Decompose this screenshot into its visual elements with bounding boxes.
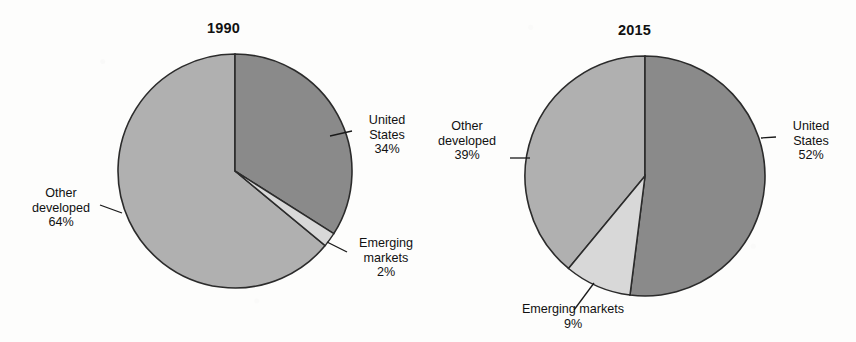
pie-chart-2015: 2015 United States 52% Other developed 3… xyxy=(0,0,856,342)
label-other-developed-2015-line1: Other xyxy=(430,119,504,134)
label-emerging-markets-2015-value: 9% xyxy=(478,317,668,332)
label-other-developed-2015: Other developed 39% xyxy=(430,119,504,163)
label-united-states-2015-line2: States xyxy=(780,134,842,149)
label-emerging-markets-2015: Emerging markets 9% xyxy=(478,302,668,331)
pie-2015-graphic xyxy=(0,0,856,342)
label-united-states-2015: United States 52% xyxy=(780,119,842,163)
label-united-states-2015-line1: United xyxy=(780,119,842,134)
label-other-developed-2015-value: 39% xyxy=(430,148,504,163)
figure-canvas: 1990 United States 34% Emerging markets … xyxy=(0,0,856,342)
label-emerging-markets-2015-line1: Emerging markets xyxy=(478,302,668,317)
slice-united-states-2015[interactable] xyxy=(630,56,765,296)
leader-line-united-states-2015 xyxy=(761,137,776,138)
label-united-states-2015-value: 52% xyxy=(780,148,842,163)
label-other-developed-2015-line2: developed xyxy=(430,134,504,149)
